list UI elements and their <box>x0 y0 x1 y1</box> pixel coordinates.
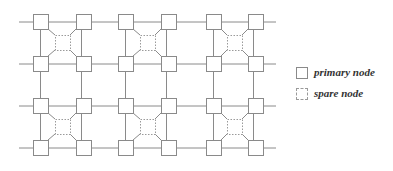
primary-node <box>249 99 264 114</box>
spare-node <box>228 36 243 51</box>
spare-link-cluster-2-upper-se <box>155 50 161 56</box>
primary-node <box>77 15 92 30</box>
primary-node <box>162 141 177 156</box>
primary-node <box>119 141 134 156</box>
primary-node <box>207 99 222 114</box>
spare-link-cluster-2-lower-sw <box>133 134 140 140</box>
spare-link-cluster-3-lower-sw <box>221 134 227 140</box>
primary-node <box>34 57 49 72</box>
spare-node <box>228 120 243 135</box>
spare-link-cluster-1-lower-se <box>70 134 76 140</box>
spare-link-cluster-2-upper-sw <box>133 50 140 56</box>
mesh-diagram <box>0 0 393 171</box>
nodes-layer <box>34 15 264 156</box>
spare-node <box>141 120 156 135</box>
spare-link-cluster-3-upper-sw <box>221 50 227 56</box>
spare-link-cluster-2-lower-ne <box>155 113 161 119</box>
spare-link-cluster-1-lower-nw <box>48 113 55 119</box>
primary-node <box>207 141 222 156</box>
primary-node <box>249 141 264 156</box>
primary-node <box>34 99 49 114</box>
primary-node <box>162 15 177 30</box>
legend-spare-label: spare node <box>314 87 363 99</box>
primary-node <box>119 57 134 72</box>
spare-link-cluster-2-lower-se <box>155 134 161 140</box>
spare-link-cluster-1-lower-sw <box>48 134 55 140</box>
spare-node <box>56 120 71 135</box>
spare-link-cluster-2-upper-ne <box>155 29 161 35</box>
primary-node <box>119 99 134 114</box>
spare-link-cluster-1-lower-ne <box>70 113 76 119</box>
spare-link-cluster-3-lower-ne <box>242 113 248 119</box>
primary-node <box>119 15 134 30</box>
primary-node <box>207 15 222 30</box>
spare-node <box>56 36 71 51</box>
spare-link-cluster-1-upper-nw <box>48 29 55 35</box>
primary-node <box>34 141 49 156</box>
primary-node <box>207 57 222 72</box>
spare-link-cluster-3-lower-se <box>242 134 248 140</box>
spare-link-cluster-1-upper-ne <box>70 29 76 35</box>
primary-node <box>162 57 177 72</box>
legend-primary-label: primary node <box>314 66 375 78</box>
spare-link-cluster-1-upper-sw <box>48 50 55 56</box>
primary-node <box>77 141 92 156</box>
primary-node <box>77 57 92 72</box>
spare-link-cluster-3-upper-se <box>242 50 248 56</box>
spare-node <box>141 36 156 51</box>
spare-link-cluster-3-upper-ne <box>242 29 248 35</box>
spare-link-cluster-1-upper-se <box>70 50 76 56</box>
primary-node <box>249 15 264 30</box>
primary-node <box>77 99 92 114</box>
legend-primary-swatch <box>296 67 308 79</box>
primary-node <box>162 99 177 114</box>
spare-link-cluster-2-lower-nw <box>133 113 140 119</box>
spare-link-cluster-2-upper-nw <box>133 29 140 35</box>
legend-spare-swatch <box>296 88 308 100</box>
primary-node <box>249 57 264 72</box>
primary-node <box>34 15 49 30</box>
